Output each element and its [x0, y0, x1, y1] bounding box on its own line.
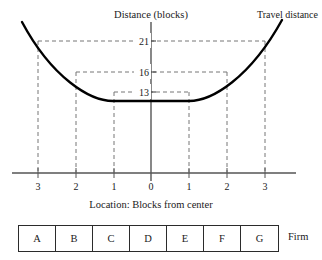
x-tick-label-neg1: 1: [112, 181, 117, 192]
firm-cell-d: D: [130, 226, 167, 251]
x-tick-label-neg2: 2: [74, 181, 79, 192]
x-tick-label-neg3: 3: [36, 181, 41, 192]
travel-distance-figure: Distance (blocks) Travel distance 21 16 …: [0, 0, 322, 260]
firm-cell-b: B: [56, 226, 93, 251]
firm-cell-g: G: [241, 226, 278, 251]
travel-distance-curve: [22, 20, 282, 101]
chart-canvas: Distance (blocks) Travel distance 21 16 …: [0, 0, 322, 222]
curve-label: Travel distance: [257, 9, 319, 20]
x-tick-label-pos3: 3: [263, 181, 268, 192]
firm-cell-f: F: [204, 226, 241, 251]
x-tick-label-pos2: 2: [225, 181, 230, 192]
firm-cell-e: E: [167, 226, 204, 251]
y-tick-label-21: 21: [139, 36, 149, 47]
x-tick-label-pos1: 1: [187, 181, 192, 192]
firm-legend-label: Firm: [288, 231, 308, 242]
y-axis-title: Distance (blocks): [114, 9, 188, 21]
y-tick-label-16: 16: [139, 67, 149, 78]
x-axis-title: Location: Blocks from center: [89, 199, 213, 210]
firm-table: A B C D E F G: [18, 225, 279, 252]
firm-cell-c: C: [93, 226, 130, 251]
y-tick-label-13: 13: [139, 87, 149, 98]
x-tick-label-zero: 0: [149, 181, 154, 192]
firm-cell-a: A: [19, 226, 56, 251]
